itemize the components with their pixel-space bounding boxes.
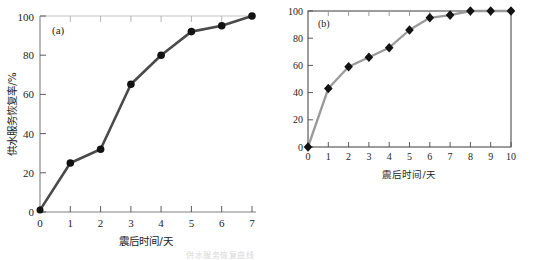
x-tick-label: 5 [189,217,195,229]
data-point [67,159,75,167]
x-tick-label: 0 [37,217,43,229]
chart-panel-a: 0 20 40 60 80 100 [0,0,268,258]
y-tick-label: 100 [18,11,35,23]
series-line-a [40,16,252,210]
data-point [248,12,256,20]
data-point [97,146,105,154]
x-tick-label: 8 [468,151,473,162]
data-point [507,6,516,16]
y-tick-label: 60 [293,60,303,71]
y-ticks-b [308,11,313,147]
chart-a-svg: 0 20 40 60 80 100 [0,0,268,258]
data-point [486,6,495,16]
x-tick-label: 2 [98,217,104,229]
series-markers-b [304,6,516,152]
y-tick-label: 80 [23,49,35,61]
data-point [157,51,165,59]
x-tick-label: 7 [448,151,453,162]
data-point [365,52,374,62]
data-point [37,207,44,214]
x-tick-label: 6 [219,217,225,229]
y-axis-title-a: 供水服务恢复率/% [6,72,18,156]
x-tick-label: 1 [68,217,74,229]
x-tick-label: 2 [346,151,351,162]
series-markers-a [37,12,256,213]
panel-label-a: (a) [52,24,65,37]
data-point [466,6,475,16]
x-tick-label: 7 [249,217,255,229]
y-tick-label: 80 [293,33,303,44]
data-point [446,10,455,20]
x-ticks-b [308,142,511,147]
y-tick-label: 20 [293,114,303,125]
x-tick-label: 4 [158,217,164,229]
chart-b-svg: 0 20 40 60 80 100 [268,0,538,258]
x-tick-labels-a: 0 1 2 3 4 5 6 7 [37,217,255,229]
panel-label-b: (b) [318,18,330,30]
data-point [188,28,196,36]
x-axis-title-b: 震后时间/天 [382,169,435,180]
x-tick-label: 6 [427,151,432,162]
y-tick-label: 100 [288,6,303,17]
x-axis-title-a: 震后时间/天 [119,235,174,247]
x-tick-label: 4 [387,151,392,162]
y-tick-label: 40 [23,128,35,140]
y-tick-label: 40 [293,87,303,98]
y-tick-labels-b: 0 20 40 60 80 100 [288,6,303,153]
x-ticks-a [40,206,252,212]
data-point [127,80,135,88]
y-tick-labels-a: 0 20 40 60 80 100 [18,11,35,219]
y-tick-label: 60 [23,88,35,100]
y-tick-label: 0 [298,142,303,153]
x-tick-label: 0 [306,151,311,162]
x-tick-labels-b: 0 1 2 3 4 5 6 7 8 9 10 [306,151,517,162]
data-point [426,13,435,23]
y-ticks-a [40,16,46,212]
x-tick-label: 9 [488,151,493,162]
x-ticks-top-a [70,16,221,22]
x-tick-label: 10 [506,151,516,162]
chart-panel-b: 0 20 40 60 80 100 [268,0,538,258]
x-tick-label: 1 [326,151,331,162]
figure-caption-faint: 供水服务恢复曲线 [186,249,254,260]
y-tick-label: 0 [29,206,35,218]
data-point [218,22,226,30]
x-tick-label: 5 [407,151,412,162]
y-tick-label: 20 [23,167,35,179]
x-tick-label: 3 [366,151,371,162]
x-tick-label: 3 [128,217,134,229]
